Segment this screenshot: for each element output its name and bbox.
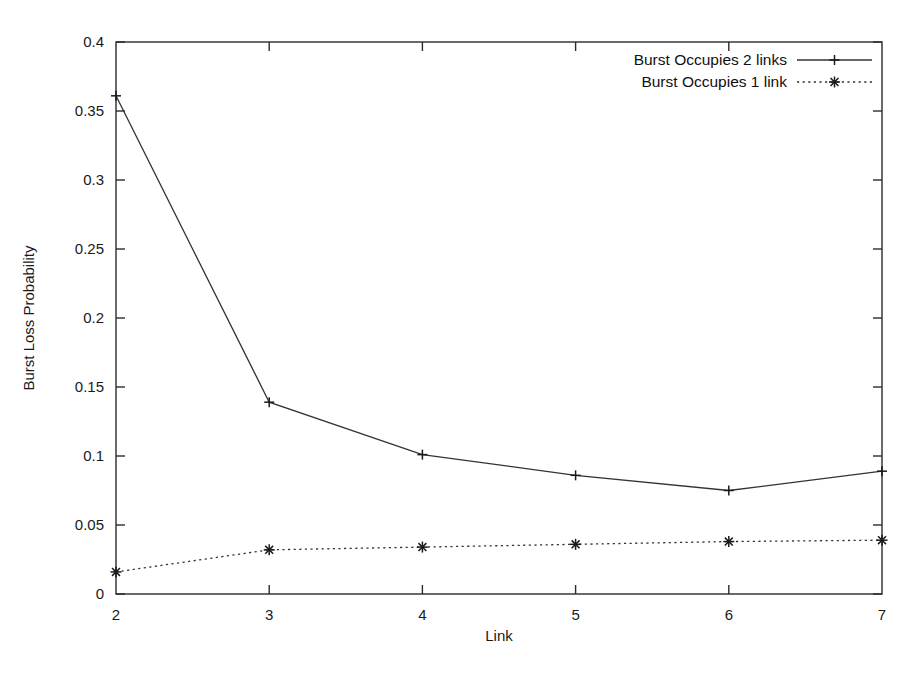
- legend-label-1: Burst Occupies 2 links: [634, 51, 788, 68]
- legend-label-2: Burst Occupies 1 link: [641, 73, 787, 90]
- y-tick-label: 0.2: [83, 309, 104, 326]
- y-tick-label: 0.1: [83, 447, 104, 464]
- y-tick-label: 0.4: [83, 33, 104, 50]
- y-tick-label: 0.35: [75, 102, 104, 119]
- y-tick-label: 0.3: [83, 171, 104, 188]
- x-tick-label: 6: [725, 606, 733, 623]
- x-tick-label: 2: [112, 606, 120, 623]
- y-tick-label: 0.05: [75, 516, 104, 533]
- x-axis-title: Link: [485, 627, 513, 644]
- x-tick-label: 3: [265, 606, 273, 623]
- line-chart: 00.050.10.150.20.250.30.350.4 234567 Bur…: [0, 0, 903, 676]
- x-tick-label: 5: [571, 606, 579, 623]
- y-tick-label: 0.25: [75, 240, 104, 257]
- x-tick-label: 4: [418, 606, 426, 623]
- y-tick-label: 0: [96, 585, 104, 602]
- y-axis-title: Burst Loss Probability: [20, 245, 37, 391]
- x-tick-label: 7: [878, 606, 886, 623]
- chart-background: [0, 0, 903, 676]
- y-tick-label: 0.15: [75, 378, 104, 395]
- chart-container: 00.050.10.150.20.250.30.350.4 234567 Bur…: [0, 0, 903, 676]
